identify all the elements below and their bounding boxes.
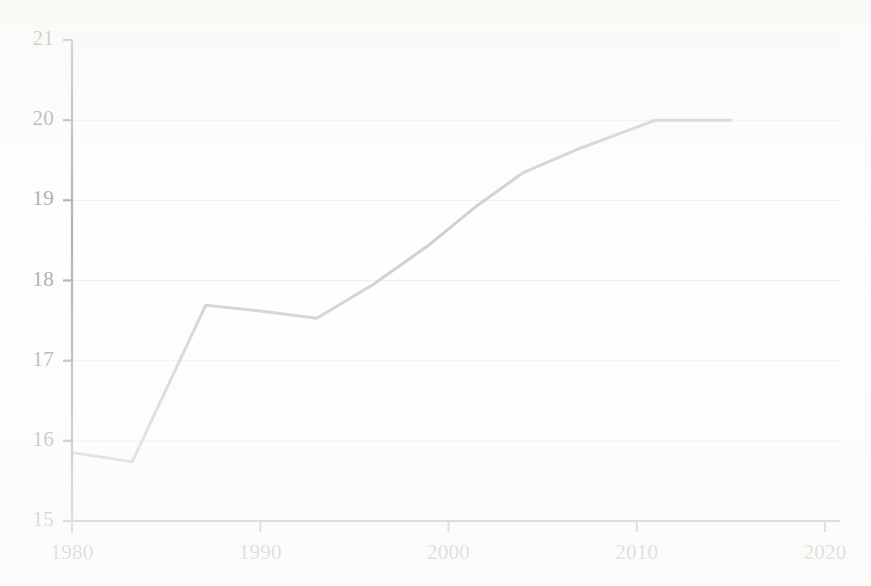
y-tick-label-19: 19 — [8, 186, 54, 211]
x-tick-label-2000: 2000 — [404, 540, 494, 565]
line-chart-plot — [0, 0, 871, 586]
x-tick-label-1980: 1980 — [27, 540, 117, 565]
y-tick-label-21: 21 — [8, 26, 54, 51]
y-tick-label-16: 16 — [8, 427, 54, 452]
data-series-group — [74, 120, 731, 462]
series-line-0 — [74, 120, 731, 462]
chart-container: 15161718192021 19801990200020102020 — [0, 0, 871, 586]
x-tick-label-2020: 2020 — [780, 540, 870, 565]
gridlines-group — [72, 40, 840, 521]
y-tick-marks-group — [63, 40, 72, 521]
y-tick-label-18: 18 — [8, 267, 54, 292]
x-tick-label-1990: 1990 — [215, 540, 305, 565]
x-tick-marks-group — [72, 521, 825, 532]
x-tick-label-2010: 2010 — [592, 540, 682, 565]
y-tick-label-20: 20 — [8, 106, 54, 131]
y-tick-label-17: 17 — [8, 347, 54, 372]
y-tick-label-15: 15 — [8, 507, 54, 532]
